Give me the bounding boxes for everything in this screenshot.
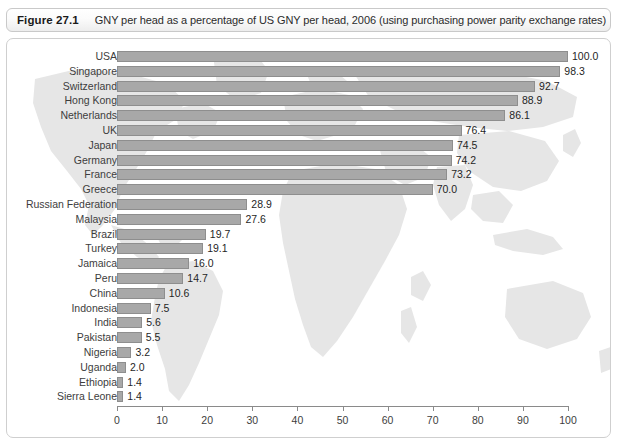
bar-row: Switzerland92.7 — [7, 81, 611, 92]
bar — [117, 362, 126, 373]
x-axis-tick — [478, 406, 479, 411]
bar-row: India5.6 — [7, 317, 611, 328]
category-label: France — [6, 167, 117, 181]
bar-value-label: 98.3 — [564, 64, 584, 78]
bar — [117, 303, 151, 314]
category-label: Malaysia — [6, 212, 117, 226]
bar-value-label: 1.4 — [127, 375, 142, 389]
category-label: Uganda — [6, 360, 117, 374]
category-label: Switzerland — [6, 79, 117, 93]
bar-value-label: 73.2 — [451, 167, 471, 181]
x-axis-tick-label: 50 — [323, 413, 363, 427]
category-label: Ethiopia — [6, 375, 117, 389]
category-label: India — [6, 315, 117, 329]
bar — [117, 377, 123, 388]
x-axis-tick-label: 30 — [232, 413, 272, 427]
category-label: UK — [6, 123, 117, 137]
x-axis-tick — [388, 406, 389, 411]
bar-value-label: 19.7 — [210, 227, 230, 241]
bar-row: USA100.0 — [7, 51, 611, 62]
bar — [117, 184, 433, 195]
bar-value-label: 28.9 — [251, 197, 271, 211]
category-label: Singapore — [6, 64, 117, 78]
bar-value-label: 74.2 — [456, 153, 476, 167]
category-label: Indonesia — [6, 301, 117, 315]
x-axis-tick-label: 70 — [413, 413, 453, 427]
bar — [117, 391, 123, 402]
x-axis-tick — [252, 406, 253, 411]
bar-row: Indonesia7.5 — [7, 303, 611, 314]
category-label: Peru — [6, 271, 117, 285]
bar — [117, 243, 203, 254]
figure-number: Figure 27.1 — [17, 14, 79, 26]
bar-value-label: 27.6 — [245, 212, 265, 226]
category-label: Germany — [6, 153, 117, 167]
category-label: USA — [6, 49, 117, 63]
bar-row: Russian Federation28.9 — [7, 199, 611, 210]
x-axis-tick-label: 100 — [548, 413, 588, 427]
chart-plot-area: USA100.0Singapore98.3Switzerland92.7Hong… — [7, 39, 611, 438]
bar-value-label: 70.0 — [437, 182, 457, 196]
bar — [117, 199, 247, 210]
x-axis-tick — [568, 406, 569, 411]
category-label: Sierra Leone — [6, 389, 117, 403]
category-label: Jamaica — [6, 256, 117, 270]
bar — [117, 51, 568, 62]
bar-row: Pakistan5.5 — [7, 332, 611, 343]
bar-value-label: 2.0 — [130, 360, 145, 374]
bar-value-label: 88.9 — [522, 93, 542, 107]
x-axis-tick-label: 40 — [277, 413, 317, 427]
category-label: Brazil — [6, 227, 117, 241]
category-label: Nigeria — [6, 345, 117, 359]
bar-row: Turkey19.1 — [7, 243, 611, 254]
bar-value-label: 76.4 — [466, 123, 486, 137]
bar — [117, 95, 518, 106]
figure-root: Figure 27.1 GNY per head as a percentage… — [0, 0, 617, 445]
bar-row: Ethiopia1.4 — [7, 377, 611, 388]
bar-value-label: 1.4 — [127, 389, 142, 403]
bar — [117, 140, 453, 151]
category-label: Turkey — [6, 241, 117, 255]
bar-row: Nigeria3.2 — [7, 347, 611, 358]
bar-row: Japan74.5 — [7, 140, 611, 151]
bar-row: Netherlands86.1 — [7, 110, 611, 121]
bar — [117, 258, 189, 269]
x-axis-tick-label: 20 — [187, 413, 227, 427]
chart-frame: USA100.0Singapore98.3Switzerland92.7Hong… — [6, 38, 611, 438]
bar — [117, 155, 452, 166]
bar-value-label: 16.0 — [193, 256, 213, 270]
x-axis-tick-label: 90 — [503, 413, 543, 427]
bar — [117, 332, 142, 343]
x-axis-tick — [433, 406, 434, 411]
bar-row: Uganda2.0 — [7, 362, 611, 373]
bar-row: Sierra Leone1.4 — [7, 391, 611, 402]
bar-row: UK76.4 — [7, 125, 611, 136]
bar-value-label: 100.0 — [572, 49, 598, 63]
bar-value-label: 3.2 — [135, 345, 150, 359]
bar-row: Malaysia27.6 — [7, 214, 611, 225]
bar-value-label: 5.5 — [146, 330, 161, 344]
x-axis-tick-label: 80 — [458, 413, 498, 427]
x-axis-tick-label: 0 — [97, 413, 137, 427]
bar-row: Greece70.0 — [7, 184, 611, 195]
bar-row: Hong Kong88.9 — [7, 95, 611, 106]
bar-value-label: 5.6 — [146, 315, 161, 329]
bar — [117, 317, 142, 328]
bar-value-label: 86.1 — [509, 108, 529, 122]
bar-value-label: 10.6 — [169, 286, 189, 300]
bar — [117, 110, 505, 121]
x-axis-tick — [207, 406, 208, 411]
x-axis-tick-label: 60 — [368, 413, 408, 427]
bar — [117, 214, 241, 225]
bar-value-label: 14.7 — [187, 271, 207, 285]
category-label: Netherlands — [6, 108, 117, 122]
bar-row: Jamaica16.0 — [7, 258, 611, 269]
category-label: Pakistan — [6, 330, 117, 344]
figure-caption-text: GNY per head as a percentage of US GNY p… — [95, 14, 606, 26]
bar — [117, 81, 535, 92]
x-axis-tick — [117, 406, 118, 411]
bar-value-label: 92.7 — [539, 79, 559, 93]
x-axis-tick-label: 10 — [142, 413, 182, 427]
x-axis-tick — [297, 406, 298, 411]
figure-caption-bar: Figure 27.1 GNY per head as a percentage… — [6, 8, 611, 32]
